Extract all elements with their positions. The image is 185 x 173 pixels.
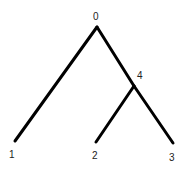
edge-0-4 [97,27,134,86]
edge-0-1 [15,27,97,141]
node-label-3: 3 [169,152,175,163]
tree-diagram: 0 4 1 2 3 [0,0,185,173]
node-label-2: 2 [92,150,98,161]
node-label-1: 1 [9,149,15,160]
edge-4-2 [96,86,134,142]
edge-4-3 [134,86,173,143]
node-label-4: 4 [137,70,143,81]
node-label-0: 0 [93,11,99,22]
